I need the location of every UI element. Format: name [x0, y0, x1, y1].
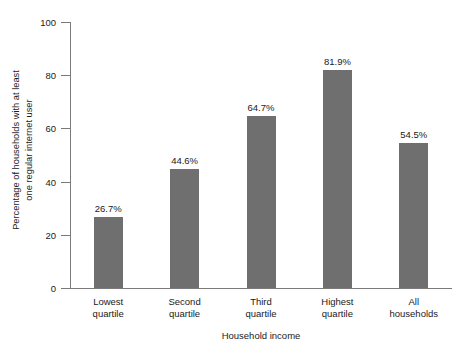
y-axis-tick — [61, 182, 70, 183]
x-axis-category-label: Allhouseholds — [369, 296, 459, 320]
x-axis-line — [70, 288, 452, 289]
y-axis-tick-label: 0 — [22, 283, 56, 294]
bar-value-label: 64.7% — [226, 102, 296, 113]
x-axis-category-label-line: households — [369, 308, 459, 320]
x-axis-category-label-line: All — [369, 296, 459, 308]
y-axis-tick — [61, 288, 70, 289]
bar-value-label: 54.5% — [379, 129, 449, 140]
bar — [170, 169, 199, 288]
bar — [247, 116, 276, 288]
y-axis-tick — [61, 128, 70, 129]
y-axis-tick-label: 80 — [22, 70, 56, 81]
bar — [323, 70, 352, 288]
y-axis-tick — [61, 75, 70, 76]
bar — [94, 217, 123, 288]
x-axis-title: Household income — [70, 330, 452, 341]
y-axis-tick-label: 100 — [22, 17, 56, 28]
y-axis-tick-label: 20 — [22, 229, 56, 240]
bar — [399, 143, 428, 288]
bar-value-label: 81.9% — [302, 56, 372, 67]
y-axis-tick-label: 40 — [22, 176, 56, 187]
bar-chart: Percentage of households with at least o… — [0, 0, 470, 352]
y-axis-tick-label: 60 — [22, 123, 56, 134]
y-axis-tick — [61, 235, 70, 236]
bar-value-label: 44.6% — [150, 155, 220, 166]
bar-value-label: 26.7% — [73, 203, 143, 214]
y-axis-title: Percentage of households with at least o… — [6, 0, 40, 300]
plot-area: 26.7%44.6%64.7%81.9%54.5% — [70, 22, 452, 288]
y-axis-tick — [61, 22, 70, 23]
y-axis-title-line-1: Percentage of households with at least — [10, 70, 23, 230]
